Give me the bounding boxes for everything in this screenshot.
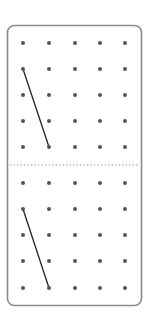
grid-dot: [47, 207, 51, 211]
grid-dot: [98, 93, 102, 97]
grid-dot: [123, 207, 127, 211]
grid-dot: [21, 286, 25, 290]
grid-dot: [47, 145, 51, 149]
grid-dot: [73, 145, 77, 149]
grid-dot: [123, 259, 127, 263]
grid-dot: [98, 259, 102, 263]
grid-dot: [73, 41, 77, 45]
grid-dot: [98, 286, 102, 290]
grid-dot: [73, 181, 77, 185]
geoboard-figure: [0, 0, 150, 323]
grid-dot: [123, 181, 127, 185]
grid-dot: [21, 181, 25, 185]
line-segment: [23, 209, 49, 288]
grid-dot: [98, 41, 102, 45]
grid-dot: [73, 233, 77, 237]
grid-dot: [123, 93, 127, 97]
grid-dot: [47, 67, 51, 71]
grid-dot: [47, 93, 51, 97]
top-geoboard: [21, 41, 127, 149]
grid-dot: [123, 67, 127, 71]
grid-dot: [98, 67, 102, 71]
grid-dot: [47, 259, 51, 263]
grid-dot: [98, 145, 102, 149]
grid-dot: [123, 41, 127, 45]
grid-dot: [21, 119, 25, 123]
grid-dot: [21, 67, 25, 71]
grid-dot: [98, 207, 102, 211]
grid-dot: [21, 207, 25, 211]
grid-dot: [123, 145, 127, 149]
geoboard-svg: [0, 0, 150, 323]
line-segment: [23, 69, 49, 147]
grid-dot: [98, 181, 102, 185]
grid-dot: [73, 286, 77, 290]
grid-dot: [73, 67, 77, 71]
grid-dot: [123, 233, 127, 237]
grid-dot: [47, 233, 51, 237]
grid-dot: [73, 259, 77, 263]
grid-dot: [47, 119, 51, 123]
grid-dot: [21, 93, 25, 97]
grid-dot: [47, 41, 51, 45]
bottom-geoboard: [21, 181, 127, 290]
grid-dot: [98, 233, 102, 237]
grid-dot: [73, 93, 77, 97]
grid-dot: [21, 233, 25, 237]
grid-dot: [123, 119, 127, 123]
grid-dot: [21, 145, 25, 149]
grid-dot: [73, 119, 77, 123]
grid-dot: [123, 286, 127, 290]
grid-dot: [47, 181, 51, 185]
grid-dot: [47, 286, 51, 290]
grid-dot: [21, 41, 25, 45]
grid-dot: [98, 119, 102, 123]
grid-dot: [21, 259, 25, 263]
grid-dot: [73, 207, 77, 211]
